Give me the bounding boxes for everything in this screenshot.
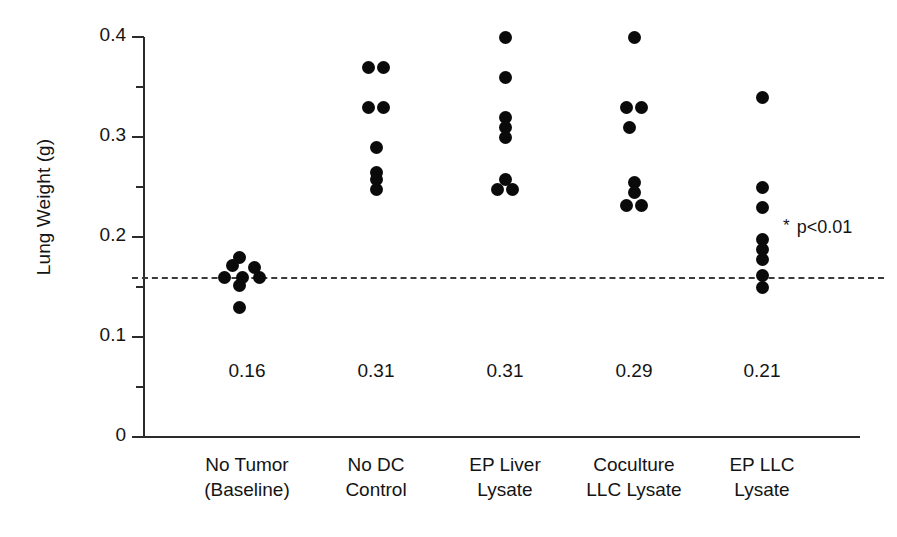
y-tick-major	[132, 336, 144, 338]
data-point	[218, 271, 231, 284]
data-point	[628, 186, 641, 199]
data-point	[362, 101, 375, 114]
data-point	[506, 183, 519, 196]
group-mean-label: 0.29	[574, 360, 694, 382]
data-point	[377, 61, 390, 74]
data-point	[233, 279, 246, 292]
data-point	[499, 131, 512, 144]
y-tick-label: 0.2	[6, 224, 126, 246]
data-point	[756, 181, 769, 194]
y-tick-label: 0.4	[6, 24, 126, 46]
data-point	[370, 183, 383, 196]
data-point	[491, 183, 504, 196]
data-point	[253, 271, 266, 284]
y-tick-major	[132, 36, 144, 38]
x-axis-line	[143, 436, 860, 438]
y-tick-major	[132, 436, 144, 438]
data-point	[226, 259, 239, 272]
category-label-line1: Coculture	[593, 454, 674, 475]
data-point	[628, 31, 641, 44]
scatter-plot-figure: Lung Weight (g) 0.40.30.20.10 0.160.310.…	[0, 0, 897, 537]
data-point	[499, 71, 512, 84]
y-tick-label: 0.1	[6, 324, 126, 346]
significance-star-icon: *	[783, 216, 790, 235]
category-label-line2: Lysate	[677, 477, 847, 502]
y-tick-major	[132, 236, 144, 238]
data-point	[623, 121, 636, 134]
category-label-line1: EP Liver	[469, 454, 540, 475]
data-point	[635, 101, 648, 114]
data-point	[756, 201, 769, 214]
p-value-text: p<0.01	[797, 217, 853, 237]
group-mean-label: 0.21	[702, 360, 822, 382]
y-axis-title: Lung Weight (g)	[33, 77, 55, 337]
group-mean-label: 0.16	[187, 360, 307, 382]
data-point	[377, 101, 390, 114]
data-point	[756, 253, 769, 266]
data-point	[233, 301, 246, 314]
category-label-line1: EP LLC	[729, 454, 794, 475]
data-point	[756, 91, 769, 104]
data-point	[620, 101, 633, 114]
y-tick-minor	[136, 86, 144, 88]
group-mean-label: 0.31	[445, 360, 565, 382]
data-point	[620, 199, 633, 212]
significance-annotation: *p<0.01	[783, 216, 852, 238]
category-label-line1: No DC	[347, 454, 404, 475]
data-point	[499, 31, 512, 44]
x-axis-category-label: EP LLCLysate	[677, 452, 847, 502]
data-point	[635, 199, 648, 212]
y-tick-minor	[136, 286, 144, 288]
data-point	[362, 61, 375, 74]
category-label-line1: No Tumor	[205, 454, 288, 475]
y-tick-label: 0	[6, 424, 126, 446]
y-tick-label: 0.3	[6, 124, 126, 146]
y-tick-major	[132, 136, 144, 138]
data-point	[370, 141, 383, 154]
y-tick-minor	[136, 186, 144, 188]
data-point	[756, 269, 769, 282]
data-point	[756, 281, 769, 294]
group-mean-label: 0.31	[316, 360, 436, 382]
y-tick-minor	[136, 386, 144, 388]
